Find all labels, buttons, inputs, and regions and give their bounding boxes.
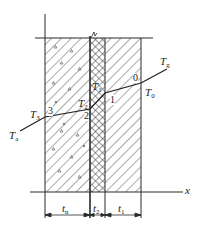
point-1: 1	[110, 95, 115, 105]
label-Ta: Ta	[9, 130, 18, 143]
break-mark	[91, 32, 97, 38]
label-T3: T3	[30, 109, 40, 122]
x-axis-label: x	[185, 185, 190, 196]
dim-label-tn: tn	[62, 203, 69, 216]
label-Tg: Tg	[160, 56, 170, 69]
dim-label-t2: t2	[93, 203, 100, 216]
layer-t1	[105, 38, 141, 192]
point-2: 2	[84, 111, 89, 121]
point-3: 3	[48, 106, 53, 116]
label-T1: T1	[92, 81, 102, 94]
label-T0: T0	[145, 87, 155, 100]
point-0: 0	[133, 73, 138, 83]
dim-label-t1: t1	[118, 203, 125, 216]
layer-t2	[90, 38, 105, 192]
